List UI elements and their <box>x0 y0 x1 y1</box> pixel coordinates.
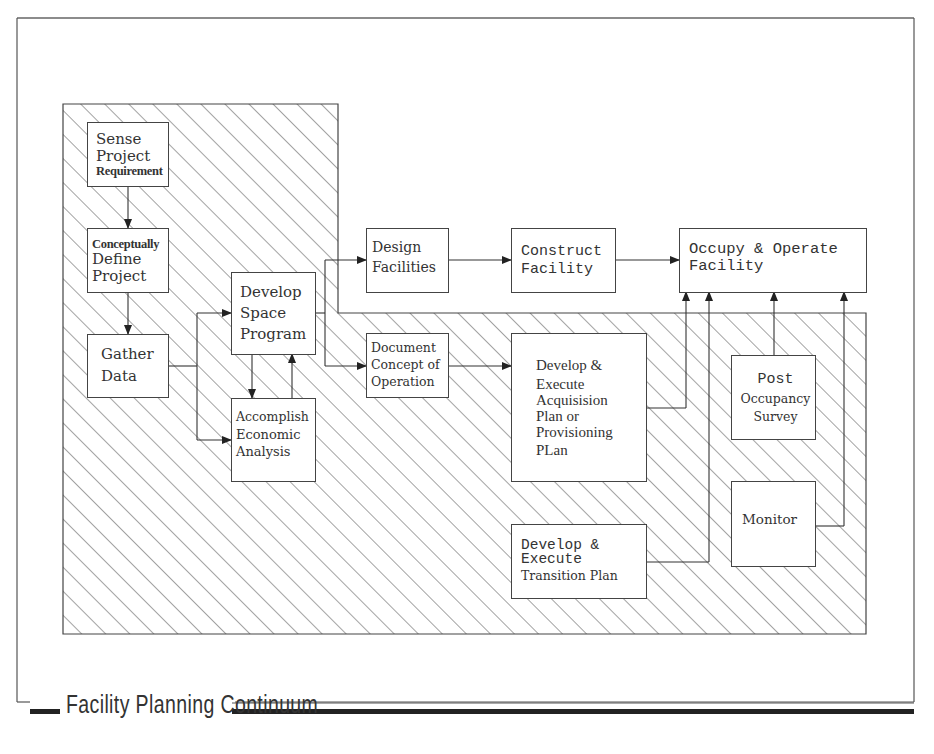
node-design-facilities: Design Facilities <box>366 228 449 293</box>
node-label-line: Economic <box>236 426 315 444</box>
node-monitor: Monitor <box>731 481 816 567</box>
node-label-line: Define <box>92 251 168 268</box>
node-label-line: Project <box>96 148 168 165</box>
node-label-line: Develop & <box>536 356 646 375</box>
node-post-occupancy-survey: Post Occupancy Survey <box>731 355 816 440</box>
node-label-line: Construct <box>521 243 615 261</box>
node-transition-plan: Develop & Execute Transition Plan <box>511 524 647 599</box>
node-label-line: Execute <box>521 552 646 567</box>
node-label-line: Sense <box>96 131 168 148</box>
node-acquisition-provisioning-plan: Develop & Execute Acquisision Plan or Pr… <box>511 333 647 482</box>
node-label-line: Program <box>240 324 315 345</box>
node-label-line: Develop <box>240 282 315 303</box>
node-label-line: Acquisision <box>536 393 646 409</box>
node-label-line: Project <box>92 268 168 285</box>
diagram-title: Facility Planning Continuum <box>66 690 389 719</box>
diagram-title-text: Facility Planning Continuum <box>66 690 318 719</box>
node-label-line: Execute <box>536 375 646 394</box>
node-label-line: Occupy & Operate <box>689 241 866 258</box>
node-document-concept-of-operation: Document Concept of Operation <box>366 333 449 398</box>
node-label-line: Operation <box>371 374 448 391</box>
node-label-line: Space <box>240 303 315 324</box>
node-label-line: Accomplish <box>236 409 315 426</box>
node-label-line: Plan or <box>536 409 646 425</box>
node-label-line: Conceptually <box>92 237 168 251</box>
node-label-line: PLan <box>536 441 646 460</box>
node-label-line: Survey <box>753 408 797 426</box>
node-label-line: Gather <box>101 344 168 366</box>
node-label-line: Design <box>372 237 448 257</box>
node-label-line: Post <box>757 369 793 390</box>
node-label-line: Document <box>371 340 448 357</box>
node-construct-facility: Construct Facility <box>511 228 616 293</box>
node-label-line: Develop & <box>521 538 646 553</box>
node-label-line: Concept of <box>371 357 448 374</box>
node-gather-data: Gather Data <box>87 334 169 398</box>
node-accomplish-economic-analysis: Accomplish Economic Analysis <box>231 398 316 482</box>
node-label-line: Requirement <box>96 164 168 178</box>
node-occupy-operate-facility: Occupy & Operate Facility <box>679 228 867 293</box>
node-label-line: Transition Plan <box>521 567 646 586</box>
node-label-line: Facility <box>521 261 615 279</box>
node-label-line: Provisioning <box>536 425 646 441</box>
node-label-line: Data <box>101 366 168 388</box>
node-conceptually-define-project: Conceptually Define Project <box>87 228 169 293</box>
node-sense-project-requirement: Sense Project Requirement <box>87 122 169 187</box>
node-develop-space-program: Develop Space Program <box>231 272 316 355</box>
node-label-line: Analysis <box>236 443 315 461</box>
node-label-line: Occupancy <box>741 390 811 408</box>
node-label-line: Facilities <box>372 257 448 277</box>
node-label-line: Facility <box>689 258 866 275</box>
diagram-canvas: Sense Project Requirement Conceptually D… <box>0 0 934 754</box>
node-label-line: Monitor <box>742 512 815 527</box>
